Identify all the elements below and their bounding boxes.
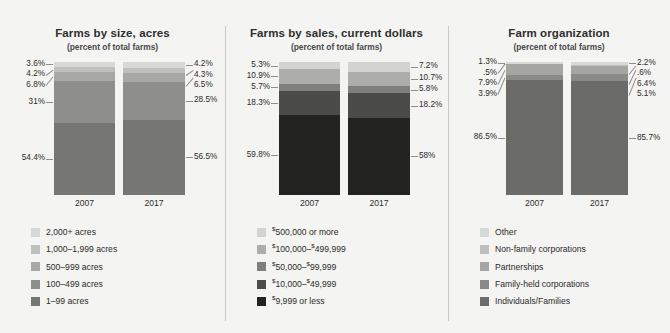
leader-line <box>186 157 193 158</box>
bar-segment <box>279 91 340 115</box>
legend-swatch <box>31 228 40 237</box>
legend-swatch <box>257 297 266 306</box>
x-tick-2017: 2017 <box>571 198 628 208</box>
x-tick-2017: 2017 <box>348 198 410 208</box>
value-label: 3.6% <box>0 59 45 68</box>
legend: $500,000 or more$100,000–$499,999$50,000… <box>257 224 346 310</box>
legend-item[interactable]: $500,000 or more <box>257 224 346 241</box>
legend: 2,000+ acres1,000–1,999 acres500–999 acr… <box>31 224 117 310</box>
legend-item[interactable]: 1,000–1,999 acres <box>31 241 117 258</box>
bar-segment <box>506 64 563 75</box>
leader-line <box>46 159 53 160</box>
bar-segment <box>348 93 410 117</box>
bar-segment <box>279 115 340 195</box>
value-label: 59.8% <box>225 150 270 159</box>
legend-swatch <box>480 262 489 271</box>
panel-subtitle: (percent of total farms) <box>0 42 225 52</box>
leader-line <box>271 155 278 156</box>
value-label: 2.2% <box>637 58 656 67</box>
legend-item[interactable]: $9,999 or less <box>257 293 346 310</box>
legend-item[interactable]: Family-held corporations <box>480 276 589 293</box>
leader-line <box>629 138 636 139</box>
legend-swatch <box>480 228 489 237</box>
value-label: 28.5% <box>194 95 217 104</box>
bar-2017 <box>571 62 628 195</box>
legend-item[interactable]: Partnerships <box>480 258 589 275</box>
leader-line <box>411 67 418 68</box>
value-label: 6.4% <box>637 79 656 88</box>
legend-label: $10,000–$49,999 <box>272 280 336 289</box>
value-label: 7.2% <box>419 61 438 70</box>
bar-2007 <box>506 62 563 195</box>
legend-swatch <box>31 245 40 254</box>
legend-swatch <box>480 280 489 289</box>
leader-line <box>411 90 418 91</box>
value-label: .6% <box>637 68 651 77</box>
panel-farm-organization: Farm organization (percent of total farm… <box>448 0 670 333</box>
bar-segment <box>279 69 340 83</box>
bar-2007 <box>54 62 115 195</box>
bar-segment <box>571 81 628 195</box>
legend-label: $50,000–$99,999 <box>272 263 336 272</box>
bar-segment <box>348 62 410 72</box>
panel-subtitle: (percent of total farms) <box>225 42 448 52</box>
bar-segment <box>123 120 185 195</box>
bar-segment <box>348 72 410 86</box>
value-label: 18.2% <box>419 100 442 109</box>
bar-2007 <box>279 62 340 195</box>
value-label: 31% <box>0 97 45 106</box>
value-label: 4.2% <box>194 59 213 68</box>
panel-title: Farms by sales, current dollars <box>225 27 448 39</box>
bar-2017 <box>123 62 185 195</box>
legend-label: Non-family corporations <box>495 245 586 254</box>
bar-segment <box>348 118 410 195</box>
bar-segment <box>348 86 410 94</box>
legend-label: Partnerships <box>495 263 543 272</box>
value-label: 5.7% <box>225 82 270 91</box>
legend-item[interactable]: $100,000–$499,999 <box>257 241 346 258</box>
legend-swatch <box>257 262 266 271</box>
value-label: 6.8% <box>0 80 45 89</box>
chart-figure: Farms by size, acres (percent of total f… <box>0 0 670 333</box>
leader-line <box>186 101 193 102</box>
value-label: .5% <box>448 68 497 77</box>
legend-item[interactable]: Non-family corporations <box>480 241 589 258</box>
bar-segment <box>279 84 340 92</box>
legend-swatch <box>31 262 40 271</box>
leader-line <box>411 79 418 80</box>
legend-label: 1,000–1,999 acres <box>46 245 117 254</box>
legend-item[interactable]: 500–999 acres <box>31 258 117 275</box>
leader-line <box>186 65 193 66</box>
value-label: 54.4% <box>0 153 45 162</box>
legend-label: Family-held corporations <box>495 280 589 289</box>
value-label: 85.7% <box>637 133 660 142</box>
bar-segment <box>54 72 115 81</box>
legend-swatch <box>480 297 489 306</box>
legend-item[interactable]: $50,000–$99,999 <box>257 258 346 275</box>
bar-segment <box>123 82 185 120</box>
value-label: 86.5% <box>448 132 497 141</box>
legend-label: $100,000–$499,999 <box>272 245 346 254</box>
legend-swatch <box>257 228 266 237</box>
value-label: 10.9% <box>225 71 270 80</box>
panel-farms-by-size: Farms by size, acres (percent of total f… <box>0 0 225 333</box>
legend-item[interactable]: Other <box>480 224 589 241</box>
leader-line <box>46 64 53 65</box>
legend-item[interactable]: 2,000+ acres <box>31 224 117 241</box>
bar-segment <box>571 66 628 75</box>
leader-line <box>271 76 278 77</box>
legend-swatch <box>480 245 489 254</box>
bar-2017 <box>348 62 410 195</box>
legend-item[interactable]: 100–499 acres <box>31 276 117 293</box>
legend: OtherNon-family corporationsPartnerships… <box>480 224 589 310</box>
leader-line <box>271 87 278 88</box>
legend-item[interactable]: $10,000–$49,999 <box>257 276 346 293</box>
legend-label: $9,999 or less <box>272 297 325 306</box>
legend-item[interactable]: Individuals/Families <box>480 293 589 310</box>
legend-item[interactable]: 1–99 acres <box>31 293 117 310</box>
bar-segment <box>279 62 340 69</box>
legend-label: Individuals/Families <box>495 297 570 306</box>
legend-label: 2,000+ acres <box>46 228 96 237</box>
legend-swatch <box>257 280 266 289</box>
panel-title: Farms by size, acres <box>0 27 225 39</box>
